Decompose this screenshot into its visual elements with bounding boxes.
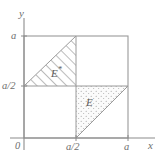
region-label-e-text: E (86, 96, 93, 108)
origin-label: 0 (15, 141, 20, 152)
x-axis-label: x (148, 140, 153, 151)
figure-svg (0, 0, 167, 163)
y-axis-label: y (19, 8, 24, 19)
x-tick-label-a: a (124, 142, 129, 153)
y-tick-label-a-half: a/2 (2, 81, 15, 92)
y-tick-label-a: a (11, 31, 16, 42)
region-label-e-star: E* (51, 66, 62, 79)
x-tick-label-a-half: a/2 (66, 142, 79, 153)
figure-canvas: y x a a/2 0 a/2 a E* E (0, 0, 167, 163)
region-label-e: E (86, 97, 93, 108)
region-label-e-star-text: E (51, 67, 58, 79)
region-label-e-star-superscript: * (58, 65, 62, 74)
